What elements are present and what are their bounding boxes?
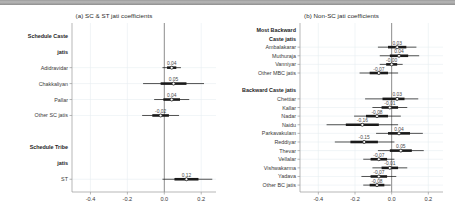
group-label: Caste jatis [228, 36, 296, 42]
value-label: 0.04 [167, 61, 177, 66]
group-label: Backward Caste jatis [228, 87, 296, 93]
value-label: 0.03 [392, 41, 402, 46]
value-label: -0.07 [373, 67, 384, 72]
panel-sc-st: (a) SC & ST jati coefficients Schedule C… [0, 5, 228, 218]
group-label: jatis [0, 49, 68, 55]
x-axis-tick-label: 0.2 [197, 196, 205, 202]
group-label: Most Backward [228, 27, 296, 33]
category-label: Vanniyar [228, 61, 296, 67]
value-label: -0.01 [384, 101, 395, 106]
value-label: 0.03 [392, 92, 402, 97]
value-label: -0.08 [371, 179, 382, 184]
value-label: 0.05 [396, 144, 406, 149]
x-axis-tick-label: -0.4 [86, 196, 96, 202]
value-label: 0.12 [182, 173, 192, 178]
category-label: Muthuraja [228, 53, 296, 59]
category-label: Parkavakulam [228, 130, 296, 136]
value-label: -0.07 [373, 170, 384, 175]
value-label: 0.04 [167, 93, 177, 98]
value-label: -0.07 [373, 153, 384, 158]
value-label: 0.05 [169, 77, 179, 82]
x-axis-tick-label: -0.2 [350, 196, 360, 202]
category-label: Thevar [228, 148, 296, 154]
value-label: -0.00 [386, 58, 397, 63]
category-label: Other MBC jatis [228, 70, 296, 76]
category-label: Yadava [228, 173, 296, 179]
plot-area-sc-st: Schedule CastejatisAdidravidar0.04Chakka… [0, 5, 228, 218]
group-label: Schedule Tribe [0, 144, 68, 150]
category-label: Kallar [228, 105, 296, 111]
value-label: -0.01 [384, 161, 395, 166]
x-axis-tick-label: 0.0 [160, 196, 168, 202]
group-label: jatis [0, 160, 68, 166]
category-label: Vellalar [228, 156, 296, 162]
x-axis-tick-label: 0.0 [388, 196, 396, 202]
category-label: Naidu [228, 122, 296, 128]
category-label: Adidravidar [0, 65, 68, 71]
category-label: Reddiyar [228, 139, 296, 145]
panel-non-sc: (b) Non-SC jati coefficients Most Backwa… [228, 5, 455, 218]
plot-area-non-sc: Most BackwardCaste jatisAmbalakarar0.03M… [228, 5, 455, 218]
x-axis-tick-label: 0.2 [424, 196, 432, 202]
category-label: Chakkaliyan [0, 81, 68, 87]
value-label: 0.04 [394, 127, 404, 132]
category-label: Pallar [0, 97, 68, 103]
value-label: -0.08 [371, 110, 382, 115]
category-label: Chettiar [228, 96, 296, 102]
x-axis-tick-label: -0.2 [123, 196, 133, 202]
category-label: Other SC jatis [0, 112, 68, 118]
category-label: Ambalakarar [228, 44, 296, 50]
x-axis-tick-label: -0.4 [314, 196, 324, 202]
category-label: Nadar [228, 113, 296, 119]
value-label: -0.15 [359, 135, 370, 140]
value-label: -0.16 [357, 118, 368, 123]
value-label: -0.02 [155, 109, 166, 114]
category-label: Vishwakarma [228, 165, 296, 171]
group-label: Schedule Caste [0, 33, 68, 39]
value-label: 0.04 [394, 49, 404, 54]
category-label: ST [0, 176, 68, 182]
category-label: Other BC jatis [228, 182, 296, 188]
